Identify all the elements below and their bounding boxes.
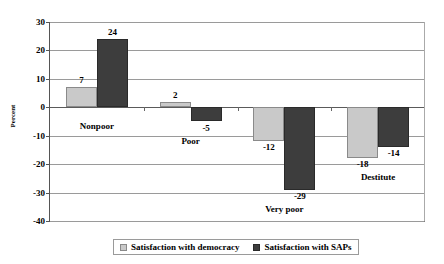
plot-area: 3020100-10-20-30-40724Nonpoor2-5Poor-12-… bbox=[49, 22, 425, 222]
y-tick-mark bbox=[46, 136, 50, 137]
y-tick-label: -10 bbox=[33, 131, 45, 141]
bar-value-label: -29 bbox=[294, 191, 306, 201]
chart-legend: Satisfaction with democracy Satisfaction… bbox=[113, 239, 359, 255]
bar-value-label: 7 bbox=[79, 75, 84, 85]
y-tick-mark bbox=[46, 193, 50, 194]
bar-value-label: -18 bbox=[357, 159, 369, 169]
bar-value-label: 2 bbox=[173, 90, 178, 100]
y-tick-label: -30 bbox=[33, 188, 45, 198]
bar-chart: Percent 3020100-10-20-30-40724Nonpoor2-5… bbox=[0, 0, 444, 264]
y-tick-mark bbox=[46, 107, 50, 108]
bar bbox=[378, 107, 409, 147]
bar-value-label: -5 bbox=[202, 123, 210, 133]
category-label: Nonpoor bbox=[80, 121, 114, 131]
bar bbox=[284, 107, 315, 189]
legend-item-label: Satisfaction with SAPs bbox=[264, 242, 351, 252]
y-tick-label: 30 bbox=[36, 17, 45, 27]
y-tick-label: 20 bbox=[36, 45, 45, 55]
bar bbox=[97, 39, 128, 107]
category-label: Very poor bbox=[265, 204, 303, 214]
y-tick-mark bbox=[46, 164, 50, 165]
legend-swatch-icon bbox=[253, 244, 260, 251]
y-tick-label: -20 bbox=[33, 159, 45, 169]
gridline bbox=[50, 221, 424, 222]
y-tick-mark bbox=[46, 221, 50, 222]
legend-item: Satisfaction with democracy bbox=[120, 242, 239, 252]
y-tick-label: 10 bbox=[36, 74, 45, 84]
category-tick bbox=[331, 107, 332, 111]
bar bbox=[160, 102, 191, 108]
y-tick-label: 0 bbox=[41, 102, 46, 112]
category-tick bbox=[144, 107, 145, 111]
gridline bbox=[50, 193, 424, 194]
bar bbox=[253, 107, 284, 141]
bar bbox=[347, 107, 378, 158]
bar-value-label: -14 bbox=[388, 148, 400, 158]
plot-inner: 3020100-10-20-30-40724Nonpoor2-5Poor-12-… bbox=[50, 22, 424, 221]
category-tick bbox=[238, 107, 239, 111]
y-axis-title: Percent bbox=[9, 86, 17, 146]
y-tick-label: -40 bbox=[33, 216, 45, 226]
y-tick-mark bbox=[46, 22, 50, 23]
y-tick-mark bbox=[46, 50, 50, 51]
gridline bbox=[50, 22, 424, 23]
bar bbox=[66, 87, 97, 107]
legend-swatch-icon bbox=[120, 244, 127, 251]
bar-value-label: 24 bbox=[108, 27, 117, 37]
y-tick-mark bbox=[46, 79, 50, 80]
legend-item-label: Satisfaction with democracy bbox=[131, 242, 239, 252]
category-label: Destitute bbox=[361, 172, 396, 182]
legend-item: Satisfaction with SAPs bbox=[253, 242, 351, 252]
bar bbox=[191, 107, 222, 121]
bar-value-label: -12 bbox=[263, 142, 275, 152]
category-label: Poor bbox=[181, 136, 200, 146]
